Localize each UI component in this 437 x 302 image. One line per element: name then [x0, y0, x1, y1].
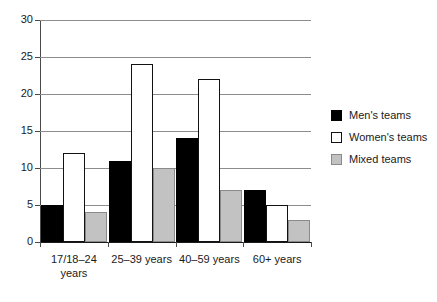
y-tick-label: 5 — [3, 199, 33, 210]
bar — [85, 212, 107, 242]
y-tick-label: 15 — [3, 125, 33, 136]
bar — [220, 190, 242, 242]
x-axis-category-label: 60+ years — [233, 252, 321, 266]
legend-item-label: Women's teams — [349, 131, 427, 143]
legend-item-label: Mixed teams — [349, 153, 411, 165]
bar — [63, 153, 85, 242]
y-tick-label: 30 — [3, 14, 33, 25]
bar — [244, 190, 266, 242]
bar — [198, 79, 220, 242]
legend-item: Mixed teams — [331, 148, 427, 170]
legend-item: Women's teams — [331, 126, 427, 148]
legend-swatch-men-icon — [331, 110, 342, 121]
legend-item-label: Men's teams — [349, 109, 411, 121]
bar — [176, 138, 198, 242]
x-tick-mark — [311, 242, 312, 247]
legend-swatch-women-icon — [331, 132, 342, 143]
bar — [131, 64, 153, 242]
bar — [41, 205, 63, 242]
y-tick-label: 0 — [3, 236, 33, 247]
bar — [266, 205, 288, 242]
y-tick-label: 25 — [3, 51, 33, 62]
x-tick-mark — [243, 242, 244, 247]
bar — [109, 161, 131, 242]
legend-item: Men's teams — [331, 104, 427, 126]
bar — [288, 220, 310, 242]
bar — [153, 168, 175, 242]
x-tick-mark — [176, 242, 177, 247]
legend-swatch-mixed-icon — [331, 154, 342, 165]
x-tick-mark — [108, 242, 109, 247]
plot-area — [40, 20, 311, 242]
x-tick-mark — [40, 242, 41, 247]
y-tick-label: 10 — [3, 162, 33, 173]
y-tick-label: 20 — [3, 88, 33, 99]
bar-chart: 051015202530 17/18–24 years25–39 years40… — [0, 0, 437, 302]
chart-legend: Men's teamsWomen's teamsMixed teams — [331, 104, 427, 170]
